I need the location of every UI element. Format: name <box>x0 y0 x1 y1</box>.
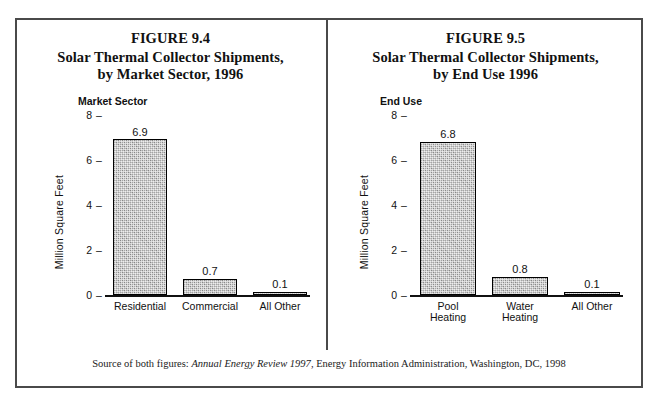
source-note-prefix: Source of both figures: <box>92 358 189 369</box>
y-tick-2-label: 2 <box>86 244 92 256</box>
y-tick-0: 0– <box>86 289 103 301</box>
chart-9-5-y-ticks: 8– 6– 4– 2– 0– <box>374 115 408 295</box>
bar-group-residential: 6.9 Residential <box>113 115 167 295</box>
tick-dash-icon: – <box>401 289 408 301</box>
bar-value-all-other: 0.1 <box>584 278 599 290</box>
category-label-water-heating-line2: Heating <box>502 312 538 324</box>
figure-panel-9-4: FIGURE 9.4 Solar Thermal Collector Shipm… <box>15 18 326 350</box>
tick-dash-icon: – <box>401 109 408 121</box>
y-tick-4: 4– <box>391 199 408 211</box>
category-label-pool-heating-line2: Heating <box>430 312 466 324</box>
figure-panel-9-5: FIGURE 9.5 Solar Thermal Collector Shipm… <box>328 18 643 350</box>
bar-commercial <box>183 279 237 295</box>
chart-9-4-y-ticks: 8– 6– 4– 2– 0– <box>69 115 103 295</box>
chart-9-4-plot-area: 6.9 Residential 0.7 Commercial 0.1 All O… <box>105 115 310 297</box>
category-label-all-other: All Other <box>572 301 613 313</box>
tick-dash-icon: – <box>96 154 103 166</box>
category-label-all-other: All Other <box>260 301 301 313</box>
y-tick-6: 6– <box>391 154 408 166</box>
y-tick-8-label: 8 <box>391 109 397 121</box>
y-tick-6-label: 6 <box>86 154 92 166</box>
bar-water-heating <box>492 277 548 295</box>
figure-9-4-title-line2: Solar Thermal Collector Shipments, <box>15 49 326 67</box>
y-tick-2-label: 2 <box>391 244 397 256</box>
category-label-pool-heating: Pool Heating <box>430 301 466 324</box>
figure-page: FIGURE 9.4 Solar Thermal Collector Shipm… <box>0 0 658 402</box>
category-label-commercial: Commercial <box>182 301 238 313</box>
bar-residential <box>113 139 167 294</box>
category-label-water-heating: Water Heating <box>502 301 538 324</box>
figure-9-5-title: FIGURE 9.5 Solar Thermal Collector Shipm… <box>328 18 643 84</box>
figure-9-4-subtitle: Market Sector <box>78 95 326 107</box>
bar-all-other <box>564 292 620 295</box>
y-tick-8: 8– <box>86 109 103 121</box>
y-tick-0-label: 0 <box>86 289 92 301</box>
source-note-publication: Annual Energy Review 1997 <box>191 358 310 369</box>
bar-group-water-heating: 0.8 Water Heating <box>492 115 548 295</box>
tick-dash-icon: – <box>401 154 408 166</box>
figure-9-4-title-line1: FIGURE 9.4 <box>15 30 326 48</box>
bar-value-pool-heating: 6.8 <box>440 128 455 140</box>
figure-9-4-title: FIGURE 9.4 Solar Thermal Collector Shipm… <box>15 18 326 84</box>
y-tick-0-label: 0 <box>391 289 397 301</box>
figure-9-5-title-line1: FIGURE 9.5 <box>328 30 643 48</box>
y-tick-0: 0– <box>391 289 408 301</box>
y-tick-4-label: 4 <box>86 199 92 211</box>
y-tick-8-label: 8 <box>86 109 92 121</box>
chart-9-5-y-axis-label: Million Square Feet <box>358 175 370 269</box>
y-tick-2: 2– <box>391 244 408 256</box>
figure-9-5-subtitle: End Use <box>380 95 643 107</box>
tick-dash-icon: – <box>96 289 103 301</box>
chart-9-5: Million Square Feet 8– 6– 4– 2– 0– 6.8 P… <box>360 115 630 325</box>
figure-9-5-title-line2: Solar Thermal Collector Shipments, <box>328 49 643 67</box>
y-tick-6: 6– <box>86 154 103 166</box>
category-label-residential: Residential <box>114 301 166 313</box>
source-note-suffix: , Energy Information Administration, Was… <box>311 358 566 369</box>
tick-dash-icon: – <box>401 199 408 211</box>
chart-9-4: Million Square Feet 8– 6– 4– 2– 0– 6.9 R… <box>55 115 317 325</box>
figure-9-5-title-line3: by End Use 1996 <box>328 66 643 84</box>
chart-9-5-plot-area: 6.8 Pool Heating 0.8 Water Heating <box>410 115 623 297</box>
bar-value-all-other: 0.1 <box>272 278 287 290</box>
y-tick-2: 2– <box>86 244 103 256</box>
tick-dash-icon: – <box>96 109 103 121</box>
tick-dash-icon: – <box>96 199 103 211</box>
bar-group-all-other: 0.1 All Other <box>253 115 307 295</box>
y-tick-4: 4– <box>86 199 103 211</box>
bar-all-other <box>253 292 307 295</box>
bar-group-all-other: 0.1 All Other <box>564 115 620 295</box>
tick-dash-icon: – <box>96 244 103 256</box>
bar-group-pool-heating: 6.8 Pool Heating <box>420 115 476 295</box>
y-tick-6-label: 6 <box>391 154 397 166</box>
chart-9-4-y-axis-label: Million Square Feet <box>53 175 65 269</box>
bar-value-residential: 6.9 <box>132 126 147 138</box>
bar-value-water-heating: 0.8 <box>512 263 527 275</box>
bar-group-commercial: 0.7 Commercial <box>183 115 237 295</box>
category-label-pool-heating-line1: Pool <box>430 301 466 313</box>
tick-dash-icon: – <box>401 244 408 256</box>
bar-pool-heating <box>420 142 476 295</box>
figure-9-4-title-line3: by Market Sector, 1996 <box>15 66 326 84</box>
category-label-water-heating-line1: Water <box>502 301 538 313</box>
y-tick-4-label: 4 <box>391 199 397 211</box>
bar-value-commercial: 0.7 <box>202 265 217 277</box>
source-note: Source of both figures: Annual Energy Re… <box>0 358 658 369</box>
y-tick-8: 8– <box>391 109 408 121</box>
